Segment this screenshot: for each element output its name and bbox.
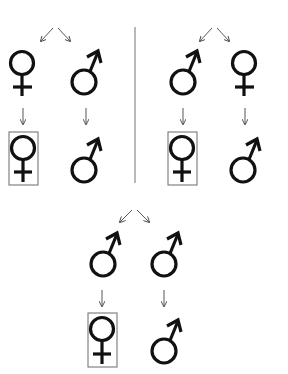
panel-top-left [9, 28, 101, 185]
male-symbol-icon [152, 320, 181, 363]
branch-arrow-left-icon [120, 210, 132, 222]
branch-arrow-left-icon [200, 28, 212, 41]
male-symbol-icon [152, 233, 181, 276]
male-symbol-icon [72, 139, 101, 182]
female-symbol-icon [12, 137, 35, 183]
branch-arrow-right-icon [217, 28, 229, 41]
female-symbol-icon [233, 52, 256, 97]
male-symbol-icon [72, 51, 101, 94]
branch-arrow-right-icon [137, 210, 149, 222]
male-symbol-icon [91, 233, 120, 276]
panel-top-right [168, 28, 260, 185]
panel-bottom [88, 210, 181, 367]
branch-arrow-right-icon [58, 28, 70, 41]
female-symbol-icon [91, 318, 114, 365]
female-symbol-icon [171, 137, 194, 183]
female-symbol-icon [11, 52, 34, 97]
male-symbol-icon [171, 51, 200, 94]
sex-inheritance-diagram [0, 0, 288, 374]
male-symbol-icon [231, 139, 260, 182]
branch-arrow-left-icon [41, 28, 53, 41]
